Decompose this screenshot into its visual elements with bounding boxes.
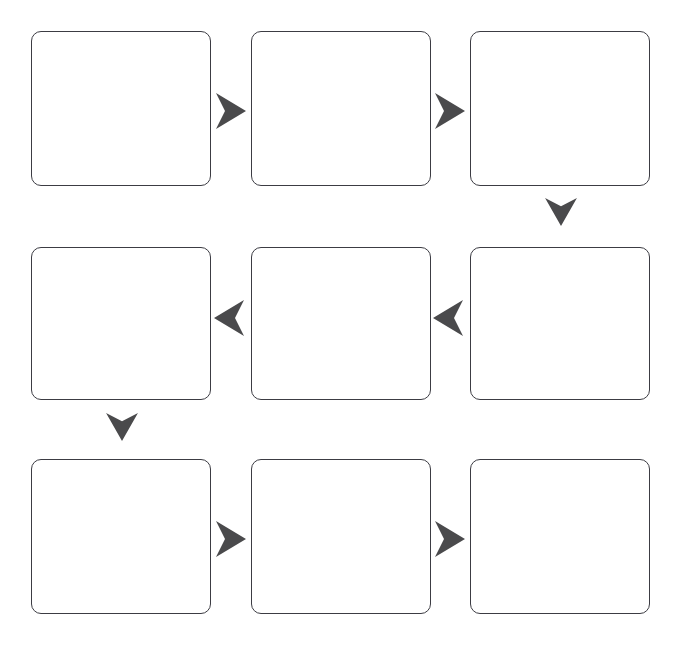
flow-box[interactable] <box>251 31 431 186</box>
flow-box[interactable] <box>251 459 431 614</box>
flow-box[interactable] <box>470 247 650 400</box>
arrow-left-icon <box>433 300 465 336</box>
flow-box[interactable] <box>31 459 211 614</box>
arrow-down-icon <box>544 196 578 226</box>
arrow-left-icon <box>214 300 246 336</box>
arrow-right-icon <box>214 93 246 129</box>
arrow-right-icon <box>433 93 465 129</box>
flow-box[interactable] <box>31 31 211 186</box>
arrow-right-icon <box>433 521 465 557</box>
flow-box[interactable] <box>251 247 431 400</box>
arrow-down-icon <box>105 411 139 441</box>
flowchart-canvas <box>0 0 678 651</box>
flow-box[interactable] <box>470 31 650 186</box>
flow-box[interactable] <box>470 459 650 614</box>
flow-box[interactable] <box>31 247 211 400</box>
arrow-right-icon <box>214 521 246 557</box>
